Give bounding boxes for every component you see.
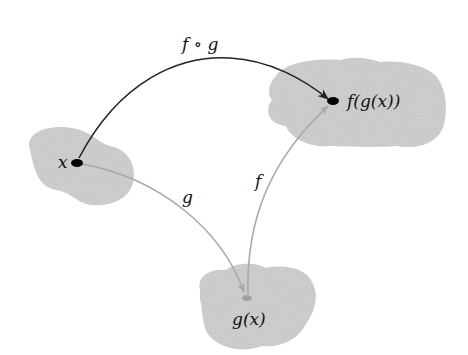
point-fgx bbox=[327, 97, 339, 105]
label-gx: g(x) bbox=[232, 309, 266, 329]
label-f: f bbox=[253, 171, 264, 191]
label-x: x bbox=[58, 152, 68, 172]
label-g: g bbox=[182, 187, 193, 207]
point-x bbox=[71, 159, 83, 167]
composition-diagram: x f(g(x)) g(x) f ∘ g g f bbox=[0, 0, 468, 355]
intermediate-blob-gx bbox=[199, 264, 315, 350]
domain-blob-x bbox=[29, 127, 134, 205]
label-composite: f ∘ g bbox=[180, 34, 218, 54]
point-gx bbox=[242, 295, 252, 301]
label-fgx: f(g(x)) bbox=[345, 91, 400, 111]
